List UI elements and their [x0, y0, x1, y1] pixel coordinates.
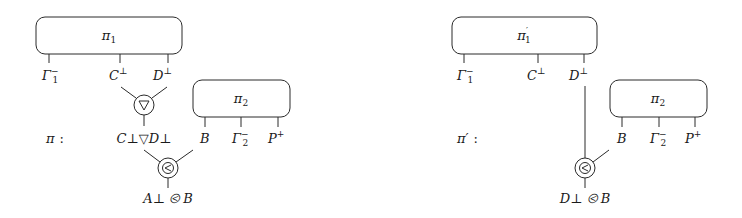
port-b: B	[199, 131, 210, 146]
port-c-perp-prime: C⊥	[527, 66, 545, 83]
seq-link-node: A⊥ ⧀ B	[142, 150, 193, 206]
diagram-pi-prime: π′1 Γ−1 C⊥ D⊥ π2 B Γ−2 P+ π′:	[452, 17, 707, 206]
port-p-plus-right: P+	[684, 129, 701, 146]
par-link-node: C⊥▽D⊥	[117, 87, 172, 146]
port-d-perp-prime: D⊥	[568, 66, 588, 83]
port-d-perp: D⊥	[152, 66, 172, 83]
proof-net-diagram: π1 Γ−1 C⊥ D⊥ π2 B Γ−2 P+ π:	[0, 0, 742, 218]
seq-formula-left: A⊥ ⧀ B	[142, 191, 192, 206]
port-c-perp: C⊥	[109, 66, 127, 83]
par-formula: C⊥▽D⊥	[117, 131, 172, 146]
diagram-name-pi: π:	[45, 131, 64, 146]
proof-net-svg: π1 Γ−1 C⊥ D⊥ π2 B Γ−2 P+ π:	[0, 0, 742, 218]
proof-box-pi2-right: π2 B Γ−2 P+	[610, 80, 707, 148]
diagram-name-pi-prime: π′:	[456, 131, 478, 146]
port-gamma2-minus-right: Γ−2	[649, 129, 667, 148]
port-gamma1-minus: Γ−1	[41, 66, 59, 85]
proof-box-pi1: π1 Γ−1 C⊥ D⊥	[36, 17, 182, 85]
port-gamma1-minus-prime: Γ−1	[456, 66, 474, 85]
seq-formula-right: D⊥ ⧀ B	[559, 191, 610, 206]
port-p-plus: P+	[267, 129, 284, 146]
diagram-pi: π1 Γ−1 C⊥ D⊥ π2 B Γ−2 P+ π:	[36, 17, 290, 206]
port-b-right: B	[616, 131, 627, 146]
port-gamma2-minus: Γ−2	[231, 129, 249, 148]
seq-link-node-prime: D⊥ ⧀ B	[559, 150, 610, 206]
proof-box-pi2: π2 B Γ−2 P+	[193, 80, 290, 148]
proof-box-pi1-prime: π′1 Γ−1 C⊥ D⊥	[452, 17, 597, 85]
